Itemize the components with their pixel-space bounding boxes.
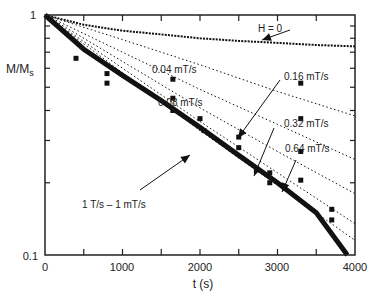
arrowhead-icon: [238, 128, 247, 138]
annotation-label: 0.08 mT/s: [158, 97, 202, 108]
x-tick-0: 0: [42, 261, 48, 273]
data-marker: [298, 178, 303, 183]
axis-ticks: [45, 15, 355, 255]
data-marker: [236, 145, 241, 150]
data-marker: [329, 217, 334, 222]
x-tick-1000: 1000: [110, 261, 134, 273]
y-axis-label: M/Ms: [6, 62, 34, 78]
data-marker: [170, 108, 175, 113]
arrowhead-icon: [262, 33, 272, 41]
annotation-label: H = 0: [258, 23, 283, 34]
annotation-label: 1 T/s – 1 mT/s: [82, 199, 146, 210]
data-marker: [267, 170, 272, 175]
data-marker: [198, 116, 203, 121]
series-line: [45, 15, 347, 255]
relaxation-chart: 1 0.1 0 1000 2000 3000 4000 t (s) M/Ms H…: [0, 0, 376, 302]
arrowhead-icon: [180, 155, 190, 163]
annotation-label: 0.04 mT/s: [152, 64, 196, 75]
series-line: [45, 15, 355, 160]
data-marker: [267, 180, 272, 185]
annotation-label: 0.32 mT/s: [284, 118, 328, 129]
x-axis-label: t (s): [193, 277, 214, 291]
x-tick-3000: 3000: [265, 261, 289, 273]
data-marker: [74, 56, 79, 61]
data-marker: [105, 81, 110, 86]
data-marker: [329, 207, 334, 212]
x-tick-2000: 2000: [188, 261, 212, 273]
annotation-label: 0.64 mT/s: [285, 143, 329, 154]
data-marker: [105, 71, 110, 76]
plot-frame: [45, 15, 355, 255]
data-marker: [201, 128, 206, 133]
y-tick-0.1: 0.1: [23, 250, 38, 262]
annotations: H = 00.04 mT/s0.08 mT/s0.16 mT/s0.32 mT/…: [82, 23, 329, 210]
arrow: [140, 155, 190, 190]
x-tick-4000: 4000: [343, 261, 367, 273]
plot-area: [45, 15, 355, 255]
annotation-label: 0.16 mT/s: [284, 71, 328, 82]
data-marker: [170, 77, 175, 82]
y-tick-1: 1: [30, 9, 36, 21]
